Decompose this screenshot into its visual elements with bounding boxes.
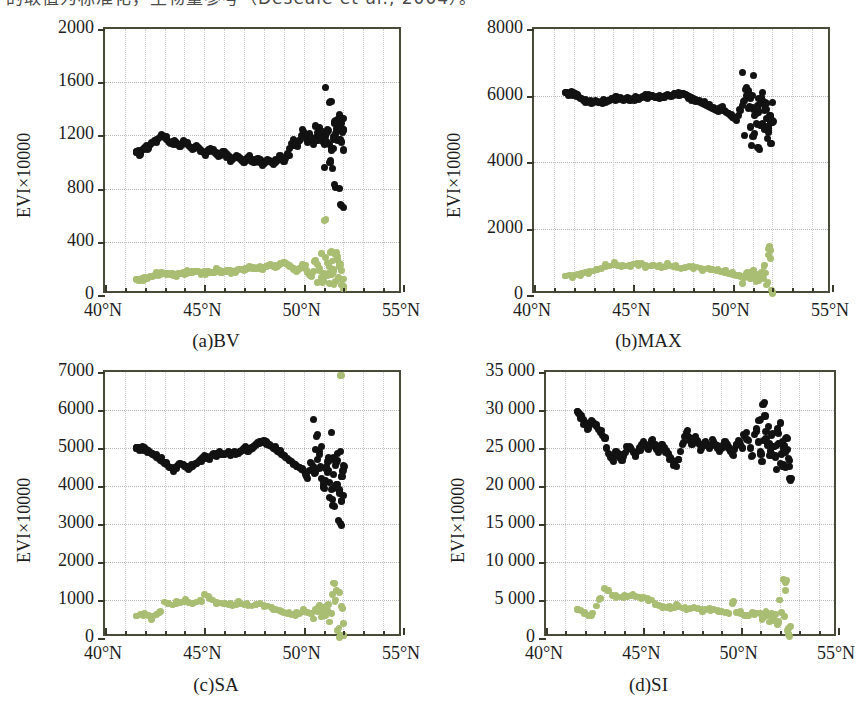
data-point [340,146,347,153]
x-axis-major-tick [733,285,735,292]
x-tick-label: 50°N [720,643,758,664]
panel-max: 0200040006000800040°N45°N50°N55°NEVI×100… [432,18,865,358]
panel-sa: 0100020003000400050006000700040°N45°N50°… [0,358,432,705]
y-axis-tick [98,29,105,31]
x-axis-major-tick [204,285,206,292]
data-point [198,598,205,605]
y-tick-label: 7000 [58,360,94,381]
y-tick-label: 20 000 [486,474,536,495]
x-axis-major-tick [105,628,107,635]
y-axis-tick [98,295,105,297]
data-point [749,133,756,140]
y-tick-label: 5 000 [495,588,536,609]
data-point [673,463,680,470]
x-axis-major-tick [741,628,743,635]
data-point [286,152,293,159]
data-point [781,613,788,620]
x-axis-minor-tick [624,631,626,635]
x-axis-minor-tick [753,288,755,292]
data-point [782,579,789,586]
x-axis-minor-tick [772,288,774,292]
data-point [758,94,765,101]
data-point [782,587,789,594]
data-point [743,436,750,443]
data-point [774,427,781,434]
data-points-b [534,29,828,291]
data-point [322,138,329,145]
x-axis-major-tick [832,285,834,292]
y-axis-tick [98,638,105,640]
x-axis-major-tick [304,628,306,635]
data-point [780,462,787,469]
x-axis-minor-tick [702,631,704,635]
y-axis-tick [539,638,546,640]
data-point [331,281,338,288]
y-axis-tick [527,29,534,31]
y-axis-label: EVI×10000 [448,478,469,563]
data-point [763,608,770,615]
data-points-c [105,372,399,634]
x-axis-major-tick [403,628,405,635]
data-point [314,137,321,144]
y-axis-tick [98,410,105,412]
data-point [336,185,343,192]
data-point [319,279,326,286]
data-point [742,86,749,93]
x-axis-major-tick [633,285,635,292]
y-axis-tick [527,162,534,164]
x-tick-label: 40°N [513,300,551,321]
data-point [328,610,335,617]
x-axis-minor-tick [554,288,556,292]
data-point [777,597,784,604]
data-point [136,152,143,159]
x-axis-minor-tick [383,288,385,292]
data-point [340,204,347,211]
data-point [777,419,784,426]
data-point [741,132,748,139]
y-axis-tick [539,486,546,488]
y-tick-label: 10 000 [486,550,536,571]
data-point [761,125,768,132]
data-point [761,412,768,419]
y-axis-tick [98,562,105,564]
panel-bv: 040080012001600200040°N45°N50°N55°NEVI×1… [0,18,432,358]
x-tick-label: 45°N [622,643,660,664]
data-point [677,448,684,455]
y-axis-tick [98,524,105,526]
data-points-d [546,372,834,634]
data-point [321,610,328,617]
data-point [739,444,746,451]
x-axis-minor-tick [721,631,723,635]
y-axis-tick [98,82,105,84]
x-axis-minor-tick [165,631,167,635]
x-axis-minor-tick [184,288,186,292]
y-axis-tick [527,96,534,98]
data-point [748,453,755,460]
x-axis-minor-tick [264,288,266,292]
y-tick-label: 8000 [487,17,523,38]
y-tick-label: 1200 [58,123,94,144]
data-point [329,502,336,509]
data-point [750,72,757,79]
x-axis-minor-tick [244,631,246,635]
x-axis-minor-tick [264,631,266,635]
data-point [331,580,338,587]
data-point [332,482,339,489]
y-tick-label: 3000 [58,512,94,533]
data-point [340,620,347,627]
y-tick-label: 6000 [487,83,523,104]
x-axis-minor-tick [363,631,365,635]
y-axis-label: EVI×10000 [14,478,35,563]
y-axis-tick [98,600,105,602]
y-tick-label: 2000 [58,17,94,38]
y-axis-label: EVI×10000 [444,133,465,218]
data-point [327,98,334,105]
x-axis-minor-tick [324,631,326,635]
data-point [746,103,753,110]
data-point [338,473,345,480]
x-axis-minor-tick [343,631,345,635]
x-axis-minor-tick [574,288,576,292]
data-point [762,270,769,277]
x-axis-minor-tick [244,288,246,292]
data-point [341,463,348,470]
